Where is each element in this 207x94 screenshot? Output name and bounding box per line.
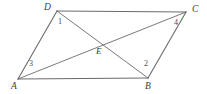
vertex-label-B: B [145, 82, 151, 92]
side-AB [18, 78, 148, 79]
vertex-label-D: D [44, 3, 51, 13]
geometry-figure: D C A B E 1 2 3 4 [0, 0, 207, 94]
parallelogram-diagonals [18, 11, 186, 79]
diagonal-BD [57, 11, 148, 78]
angle-label-1: 1 [58, 18, 62, 26]
angle-label-2: 2 [144, 60, 148, 68]
side-BC [148, 12, 186, 78]
vertex-label-C: C [192, 5, 198, 15]
vertex-label-E: E [96, 47, 102, 56]
angle-label-3: 3 [29, 60, 33, 68]
angle-label-4: 4 [174, 19, 178, 27]
parallelogram-drawing [0, 0, 207, 94]
side-DA [18, 11, 57, 79]
side-CD [57, 11, 186, 12]
vertex-label-A: A [11, 82, 17, 92]
diagonal-AC [18, 12, 186, 79]
